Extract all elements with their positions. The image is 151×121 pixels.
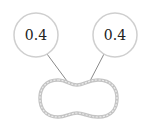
edge-right — [90, 54, 104, 81]
node-left: 0.4 — [14, 13, 58, 57]
edge-left — [47, 54, 67, 81]
node-left-label: 0.4 — [25, 27, 47, 43]
node-right-label: 0.4 — [104, 27, 126, 43]
peanut-blob — [40, 80, 117, 117]
node-right: 0.4 — [93, 13, 137, 57]
diagram-canvas: 0.4 0.4 — [0, 0, 151, 121]
